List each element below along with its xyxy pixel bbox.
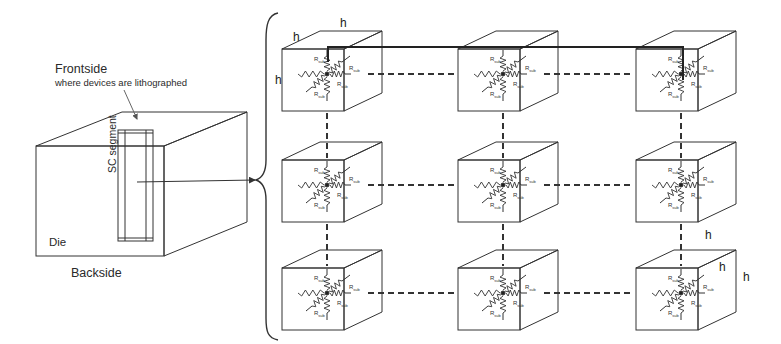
svg-text:Rsub: Rsub <box>490 167 502 175</box>
resistor-network: RsubRsubRsubRsub <box>652 161 715 212</box>
resistor-network: RsubRsubRsubRsub <box>298 50 361 101</box>
svg-text:Rsub: Rsub <box>314 167 326 175</box>
resistor-network: RsubRsubRsubRsub <box>652 269 715 320</box>
cube-cell: RsubRsubRsubRsub <box>636 142 736 222</box>
svg-text:Rsub: Rsub <box>337 300 349 308</box>
frontside-label: Frontside <box>55 62 107 76</box>
cube-cell: RsubRsubRsubRsub <box>458 142 558 222</box>
svg-text:Rsub: Rsub <box>314 56 326 64</box>
svg-text:Rsub: Rsub <box>490 275 502 283</box>
cube-cell: RsubRsubRsubRsub <box>636 31 736 111</box>
backside-label: Backside <box>71 266 122 280</box>
dimension-height-label-br: h <box>743 270 750 284</box>
resistor-network: RsubRsubRsubRsub <box>474 269 537 320</box>
sc-segment-label: SC segment <box>106 115 118 173</box>
svg-text:Rsub: Rsub <box>525 65 537 73</box>
svg-text:Rsub: Rsub <box>525 284 537 292</box>
svg-text:Rsub: Rsub <box>703 284 715 292</box>
svg-text:Rsub: Rsub <box>525 176 537 184</box>
cube-cell: RsubRsubRsubRsub <box>282 142 382 222</box>
svg-text:Rsub: Rsub <box>513 300 525 308</box>
svg-text:Rsub: Rsub <box>691 81 703 89</box>
dimension-width-label: h <box>340 16 347 30</box>
svg-text:Rsub: Rsub <box>668 275 680 283</box>
die-label: Die <box>49 236 66 248</box>
cube-grid: RsubRsubRsubRsubRsubRsubRsubRsubRsubRsub… <box>282 31 736 330</box>
svg-text:Rsub: Rsub <box>349 284 361 292</box>
svg-text:Rsub: Rsub <box>490 56 502 64</box>
cube-cell: RsubRsubRsubRsub <box>458 31 558 111</box>
svg-text:Rsub: Rsub <box>490 91 502 99</box>
resistor-network: RsubRsubRsubRsub <box>474 161 537 212</box>
svg-text:Rsub: Rsub <box>314 91 326 99</box>
dimension-width-label-br: h <box>705 228 712 242</box>
frontside-sublabel: where devices are lithographed <box>55 77 187 88</box>
svg-text:Rsub: Rsub <box>337 81 349 89</box>
die-block <box>36 90 255 256</box>
svg-text:Rsub: Rsub <box>668 202 680 210</box>
svg-text:Rsub: Rsub <box>314 202 326 210</box>
resistor-network: RsubRsubRsubRsub <box>474 50 537 101</box>
resistor-network: RsubRsubRsubRsub <box>298 161 361 212</box>
curly-brace <box>256 13 278 340</box>
svg-text:Rsub: Rsub <box>668 310 680 318</box>
svg-text:Rsub: Rsub <box>691 192 703 200</box>
cube-cell: RsubRsubRsubRsub <box>458 250 558 330</box>
svg-text:Rsub: Rsub <box>703 176 715 184</box>
resistor-network: RsubRsubRsubRsub <box>298 269 361 320</box>
svg-text:Rsub: Rsub <box>513 192 525 200</box>
die-right-face <box>164 112 247 256</box>
top-wire <box>328 47 683 80</box>
svg-text:Rsub: Rsub <box>703 65 715 73</box>
svg-text:Rsub: Rsub <box>513 81 525 89</box>
svg-text:Rsub: Rsub <box>668 56 680 64</box>
dimension-height-label: h <box>275 73 282 87</box>
svg-text:Rsub: Rsub <box>337 192 349 200</box>
svg-text:Rsub: Rsub <box>490 310 502 318</box>
svg-text:Rsub: Rsub <box>349 65 361 73</box>
dimension-depth-label-br: h <box>719 260 726 274</box>
svg-text:Rsub: Rsub <box>691 300 703 308</box>
dimension-depth-label: h <box>293 30 300 44</box>
sc-segment <box>118 130 153 241</box>
svg-text:Rsub: Rsub <box>490 202 502 210</box>
svg-text:Rsub: Rsub <box>314 275 326 283</box>
svg-text:Rsub: Rsub <box>668 167 680 175</box>
svg-text:Rsub: Rsub <box>349 176 361 184</box>
segment-to-grid-arrow <box>137 180 255 182</box>
frontside-pointer-arrow <box>124 90 137 119</box>
svg-text:Rsub: Rsub <box>314 310 326 318</box>
die-top-face <box>36 112 247 146</box>
svg-text:Rsub: Rsub <box>668 91 680 99</box>
cube-cell: RsubRsubRsubRsub <box>282 250 382 330</box>
